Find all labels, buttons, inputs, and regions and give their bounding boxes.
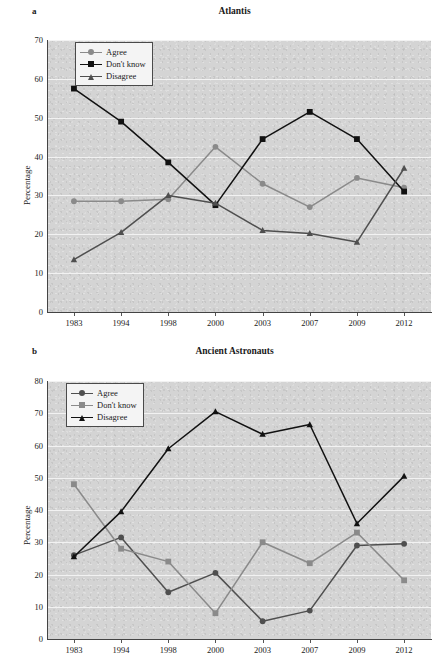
y-tick-label: 50 [21, 113, 43, 123]
legend-marker-triangle-icon [80, 71, 102, 81]
x-tick-label: 2012 [384, 645, 424, 655]
series-marker [71, 256, 77, 262]
series-marker [260, 539, 266, 545]
x-tick-label: 1998 [148, 318, 188, 328]
y-tick-label: 10 [21, 268, 43, 278]
y-tick-label: 0 [21, 634, 43, 644]
legend-label: Agree [106, 47, 127, 57]
legend-item: Agree [80, 46, 146, 58]
chart-panel-ancient-astronauts: b Ancient Astronauts Percentage 01020304… [0, 340, 439, 660]
series-marker [213, 610, 219, 616]
chart-panel-atlantis: a Atlantis Percentage 010203040506070 19… [0, 0, 439, 340]
x-axis-tick [310, 313, 311, 316]
y-tick-label: 80 [21, 376, 43, 386]
legend-marker [79, 415, 85, 421]
series-marker [354, 543, 360, 549]
legend-item: Don't know [80, 58, 146, 70]
y-tick-label: 20 [21, 570, 43, 580]
series-marker [354, 175, 360, 181]
series-marker [401, 165, 407, 171]
x-axis-tick [310, 640, 311, 643]
series-marker [401, 577, 407, 583]
panel-title-atlantis: Atlantis [0, 6, 439, 16]
x-axis-tick [215, 640, 216, 643]
y-tick-label: 70 [21, 408, 43, 418]
series-marker [260, 136, 266, 142]
x-axis-tick [404, 313, 405, 316]
x-axis-line [47, 312, 432, 313]
x-tick-label: 1994 [101, 318, 141, 328]
x-tick-label: 2009 [337, 318, 377, 328]
legend-label: Disagree [106, 71, 136, 81]
x-tick-label: 1983 [54, 645, 94, 655]
y-tick-label: 30 [21, 190, 43, 200]
series-line [74, 89, 404, 206]
series-marker [307, 560, 313, 566]
x-tick-label: 2000 [195, 318, 235, 328]
x-tick-label: 2000 [195, 645, 235, 655]
legend-b: AgreeDon't knowDisagree [66, 383, 144, 427]
y-tick-label: 70 [21, 35, 43, 45]
y-tick-label: 30 [21, 537, 43, 547]
series-marker [118, 119, 124, 125]
y-tick-label: 10 [21, 602, 43, 612]
y-tick-label: 50 [21, 473, 43, 483]
legend-label: Don't know [106, 59, 146, 69]
x-axis-tick [168, 313, 169, 316]
x-axis-tick [121, 640, 122, 643]
series-marker [165, 559, 171, 565]
x-tick-label: 1998 [148, 645, 188, 655]
series-marker [118, 198, 124, 204]
series-marker [307, 421, 313, 427]
legend-label: Disagree [97, 412, 127, 422]
x-tick-label: 2012 [384, 318, 424, 328]
legend-item: Don't know [71, 399, 137, 411]
y-tick-label: 0 [21, 307, 43, 317]
legend-marker [79, 402, 85, 408]
x-axis-tick [121, 313, 122, 316]
x-axis-line [47, 639, 432, 640]
series-marker [354, 136, 360, 142]
legend-marker [79, 390, 85, 396]
legend-label: Agree [97, 388, 118, 398]
figure-root: a Atlantis Percentage 010203040506070 19… [0, 0, 439, 660]
series-marker [165, 589, 171, 595]
series-marker [71, 481, 77, 487]
legend-marker [88, 74, 94, 80]
x-axis-tick [404, 640, 405, 643]
y-tick-label: 60 [21, 441, 43, 451]
legend-marker [88, 61, 94, 67]
legend-marker-circle-icon [80, 47, 102, 57]
legend-marker [88, 49, 94, 55]
series-marker [307, 608, 313, 614]
x-axis-tick [357, 640, 358, 643]
x-tick-label: 2003 [243, 645, 283, 655]
legend-marker-circle-icon [71, 388, 93, 398]
series-marker [71, 198, 77, 204]
x-tick-label: 1994 [101, 645, 141, 655]
x-tick-label: 1983 [54, 318, 94, 328]
x-tick-label: 2007 [290, 645, 330, 655]
x-tick-label: 2007 [290, 318, 330, 328]
series-marker [260, 181, 266, 187]
x-tick-label: 2003 [243, 318, 283, 328]
x-axis-tick [74, 640, 75, 643]
y-tick-label: 40 [21, 152, 43, 162]
y-tick-label: 20 [21, 229, 43, 239]
y-tick-label: 60 [21, 74, 43, 84]
legend-marker-triangle-icon [71, 412, 93, 422]
series-marker [401, 541, 407, 547]
legend-marker-square-icon [71, 400, 93, 410]
legend-item: Disagree [71, 411, 137, 423]
legend-item: Disagree [80, 70, 146, 82]
y-axis-line [47, 40, 48, 313]
series-marker [401, 189, 407, 195]
series-marker [354, 530, 360, 536]
y-tick-label: 40 [21, 505, 43, 515]
series-marker [213, 570, 219, 576]
series-marker [401, 473, 407, 479]
series-line [74, 168, 404, 259]
series-marker [307, 204, 313, 210]
x-axis-tick [168, 640, 169, 643]
x-axis-tick [263, 313, 264, 316]
